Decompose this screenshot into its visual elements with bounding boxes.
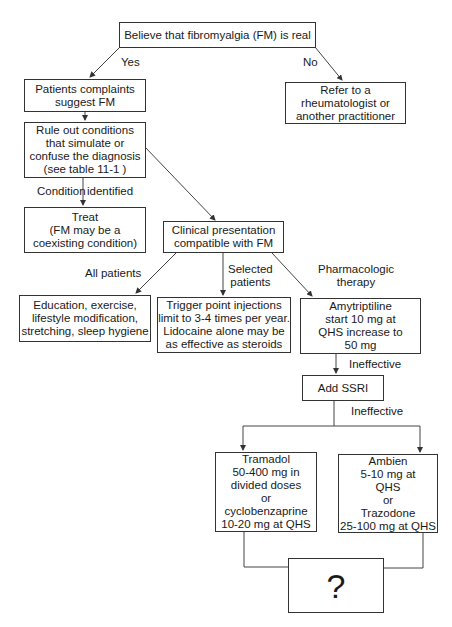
node-text: or (383, 494, 393, 507)
node-text: suggest FM (55, 96, 115, 109)
node-text: 5-10 mg at (361, 468, 416, 481)
node-patients-complaints: Patients complaints suggest FM (24, 79, 146, 112)
node-text: Add SSRI (318, 382, 369, 395)
node-text: QHS increase to (318, 326, 402, 339)
node-text: Refer to a (320, 84, 371, 97)
node-trigger-point-injections: Trigger point injections limit to 3-4 ti… (157, 297, 291, 353)
node-text: QHS (376, 481, 401, 494)
node-text: Lidocaine alone may be (163, 325, 284, 338)
node-text: or (261, 492, 271, 505)
node-text: (see table 11-1 ) (44, 163, 127, 176)
node-rule-out-conditions: Rule out conditions that simulate or con… (24, 122, 146, 178)
node-text: Believe that fibromyalgia (FM) is real (124, 29, 311, 42)
node-text: cyclobenzaprine (224, 505, 307, 518)
edge-label-ineffective-2: Ineffective (351, 405, 403, 418)
edge-label-all-patients: All patients (85, 267, 141, 280)
edge-label-ineffective-1: Ineffective (349, 358, 401, 371)
node-text: Trigger point injections (166, 299, 281, 312)
node-text: rheumatologist or (301, 97, 390, 110)
node-text: Treat (72, 211, 98, 224)
node-text: confuse the diagnosis (29, 150, 140, 163)
node-text: another practitioner (296, 110, 395, 123)
label-line: patients (228, 276, 273, 289)
node-text: 25-100 mg at QHS (340, 520, 436, 533)
node-text: Amytriptiline (329, 300, 392, 313)
node-text: that simulate or (46, 137, 125, 150)
node-text: as effective as steroids (166, 338, 283, 351)
node-text: stretching, sleep hygiene (21, 325, 148, 338)
node-believe-fm-real: Believe that fibromyalgia (FM) is real (119, 22, 316, 48)
node-add-ssri: Add SSRI (302, 375, 384, 401)
label-line: therapy (318, 276, 394, 289)
node-education-exercise: Education, exercise, lifestyle modificat… (19, 295, 151, 342)
node-tramadol: Tramadol 50-400 mg in divided doses or c… (215, 452, 317, 532)
label-line: Pharmacologic (318, 263, 394, 276)
label-line: Selected (228, 263, 273, 276)
node-unknown-next-step: ? (288, 558, 384, 613)
node-text: Education, exercise, (33, 299, 137, 312)
node-text: lifestyle modification, (32, 312, 138, 325)
node-text: divided doses (231, 479, 301, 492)
node-text: coexisting condition) (33, 237, 137, 250)
question-mark: ? (327, 569, 346, 603)
node-refer-rheumatologist: Refer to a rheumatologist or another pra… (285, 82, 406, 124)
node-text: Ambien (369, 455, 408, 468)
node-amytriptiline: Amytriptiline start 10 mg at QHS increas… (300, 298, 421, 354)
node-text: 50-400 mg in (232, 466, 299, 479)
edge-label-selected-patients: Selected patients (228, 263, 273, 289)
node-text: Trazodone (361, 507, 416, 520)
edge-label-identified: identified (87, 185, 133, 198)
node-clinical-presentation: Clinical presentation compatible with FM (163, 221, 284, 253)
node-text: start 10 mg at (325, 313, 395, 326)
node-text: limit to 3-4 times per year. (158, 312, 290, 325)
node-text: 50 mg (345, 339, 377, 352)
node-treat: Treat (FM may be a coexisting condition) (24, 207, 146, 253)
node-text: 10-20 mg at QHS (221, 518, 310, 531)
node-text: Patients complaints (35, 83, 135, 96)
node-text: (FM may be a (50, 224, 121, 237)
node-text: Rule out conditions (36, 124, 134, 137)
node-text: compatible with FM (174, 237, 273, 250)
edge-label-pharmacologic-therapy: Pharmacologic therapy (318, 263, 394, 289)
node-text: Tramadol (242, 453, 290, 466)
edge-label-no: No (303, 56, 318, 69)
node-ambien: Ambien 5-10 mg at QHS or Trazodone 25-10… (338, 454, 438, 533)
node-text: Clinical presentation (172, 224, 276, 237)
edge-label-yes: Yes (121, 56, 140, 69)
edge-label-condition: Condition (37, 185, 86, 198)
